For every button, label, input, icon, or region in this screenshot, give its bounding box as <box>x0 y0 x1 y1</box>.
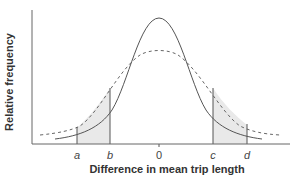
tick-label-zero: 0 <box>156 149 162 161</box>
dashed-curve <box>40 51 280 136</box>
tick-label-b: b <box>107 149 113 161</box>
tick-label-a: a <box>74 149 80 161</box>
tick-label-c: c <box>210 149 216 161</box>
x-axis-label: Difference in mean trip length <box>89 163 244 175</box>
chart-plot <box>0 0 306 182</box>
tick-label-d: d <box>244 149 250 161</box>
shaded-region-right <box>213 88 247 144</box>
y-axis-label: Relative frequency <box>3 33 15 131</box>
